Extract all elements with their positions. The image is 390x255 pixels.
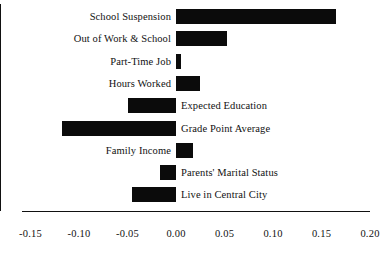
- bar[interactable]: [176, 31, 227, 46]
- bar-row: Out of Work & School: [0, 28, 390, 49]
- bar-row: Live in Central City: [0, 184, 390, 205]
- bar[interactable]: [176, 143, 193, 158]
- x-tick-label: 0.00: [166, 228, 185, 240]
- bar[interactable]: [176, 9, 336, 24]
- x-axis-line: [22, 211, 370, 212]
- bar-row: Parents' Marital Status: [0, 162, 390, 183]
- bar-row: Part-Time Job: [0, 51, 390, 72]
- x-tick-label: 0.20: [360, 228, 379, 240]
- bar[interactable]: [128, 98, 177, 113]
- bar-category-label: Hours Worked: [0, 74, 171, 93]
- x-tick-label: 0.10: [263, 228, 282, 240]
- bar-row: Family Income: [0, 140, 390, 161]
- bar[interactable]: [160, 165, 176, 180]
- horizontal-bar-chart: School SuspensionOut of Work & SchoolPar…: [0, 0, 390, 255]
- x-tick-label: 0.05: [215, 228, 234, 240]
- bar[interactable]: [176, 54, 181, 69]
- bar-category-label: School Suspension: [0, 7, 171, 26]
- bar-category-label: Family Income: [0, 141, 171, 160]
- bar-category-label: Part-Time Job: [0, 52, 171, 71]
- bar[interactable]: [176, 76, 200, 91]
- x-tick-label: 0.15: [312, 228, 331, 240]
- bar[interactable]: [62, 121, 176, 136]
- bar-category-label: Live in Central City: [181, 185, 267, 204]
- plot-area: School SuspensionOut of Work & SchoolPar…: [0, 0, 390, 218]
- zero-axis-line: [0, 4, 1, 211]
- x-tick-label: -0.10: [68, 228, 91, 240]
- bar-category-label: Parents' Marital Status: [181, 163, 278, 182]
- x-tick-label: -0.15: [19, 228, 42, 240]
- bar-category-label: Grade Point Average: [181, 119, 270, 138]
- bar-category-label: Out of Work & School: [0, 29, 171, 48]
- bar-row: School Suspension: [0, 6, 390, 27]
- bar-row: Expected Education: [0, 95, 390, 116]
- bar-row: Grade Point Average: [0, 118, 390, 139]
- bar[interactable]: [132, 187, 176, 202]
- bar-row: Hours Worked: [0, 73, 390, 94]
- bar-category-label: Expected Education: [181, 96, 267, 115]
- x-tick-label: -0.05: [116, 228, 139, 240]
